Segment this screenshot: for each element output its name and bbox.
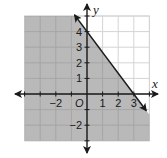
y-tick-label: 2 — [76, 57, 82, 69]
x-tick-label: −2 — [50, 97, 63, 109]
x-axis-label: x — [151, 76, 158, 91]
y-tick-label: −2 — [69, 119, 82, 131]
inequality-graph: −21234321−2 x y O — [0, 0, 167, 158]
y-axis-label: y — [91, 2, 99, 17]
x-tick-label: 3 — [131, 97, 137, 109]
origin-label: O — [75, 97, 84, 109]
x-tick-label: 1 — [100, 97, 106, 109]
y-tick-label: 3 — [76, 41, 82, 53]
x-tick-label: 2 — [115, 97, 121, 109]
coordinate-plane: −21234321−2 x y O — [0, 0, 167, 158]
y-tick-label: 1 — [76, 72, 82, 84]
y-tick-label: 4 — [76, 26, 82, 38]
